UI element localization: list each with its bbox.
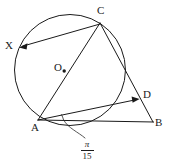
point-label-O: O bbox=[54, 62, 62, 73]
point-label-B: B bbox=[155, 117, 162, 128]
fraction-pi-over-15: π 15 bbox=[81, 139, 94, 161]
arrowhead-D bbox=[132, 96, 140, 102]
point-label-C: C bbox=[97, 5, 104, 16]
angle-leader-line bbox=[64, 120, 85, 138]
fraction-denominator: 15 bbox=[81, 151, 94, 161]
fraction-numerator: π bbox=[81, 139, 94, 149]
geometry-figure: C X O A D B π 15 bbox=[0, 0, 173, 165]
segment-AC bbox=[38, 23, 100, 120]
angle-measure-label: π 15 bbox=[74, 139, 100, 163]
point-label-A: A bbox=[31, 122, 39, 133]
segment-CB bbox=[100, 23, 153, 122]
center-point-O bbox=[62, 69, 65, 72]
segment-AD bbox=[38, 100, 136, 120]
point-label-X: X bbox=[5, 40, 13, 51]
point-label-D: D bbox=[143, 89, 151, 100]
segment-AB bbox=[38, 120, 154, 122]
